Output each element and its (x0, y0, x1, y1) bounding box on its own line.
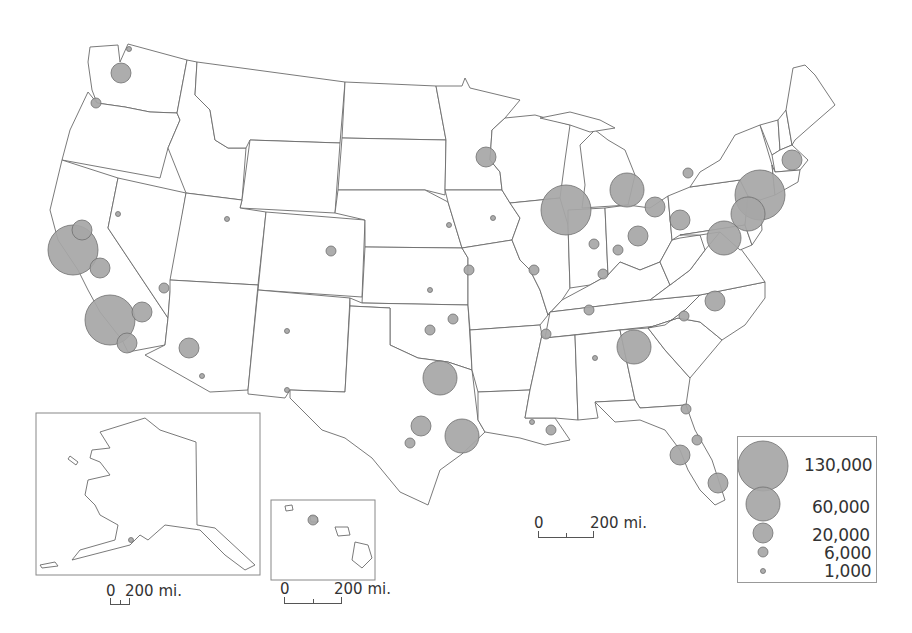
city-bubble (610, 173, 644, 207)
hawaii-inset-frame (271, 500, 375, 580)
city-bubble (90, 258, 110, 278)
city-bubble (445, 419, 479, 453)
city-bubble (405, 438, 415, 448)
legend-label-1000: 1,000 (824, 561, 871, 581)
state-north-dakota (342, 82, 446, 140)
alaska-aleutians (40, 562, 58, 568)
alaska-scale-bar (110, 598, 130, 605)
city-bubble (613, 245, 623, 255)
state-maine (786, 65, 835, 145)
city-bubble (326, 246, 336, 256)
state-washington (88, 44, 187, 113)
city-bubble (225, 217, 230, 222)
city-bubble (159, 283, 169, 293)
city-bubble (72, 220, 92, 240)
city-bubble (679, 311, 689, 321)
hawaii-scale-bar (284, 597, 342, 604)
legend-label-20000: 20,000 (812, 525, 870, 545)
city-bubble (447, 223, 452, 228)
city-bubble (584, 305, 594, 315)
city-bubble (464, 265, 474, 275)
city-bubble (428, 288, 433, 293)
legend-label-60000: 60,000 (812, 497, 870, 517)
city-bubble (529, 265, 539, 275)
city-bubble (589, 239, 599, 249)
city-bubble (423, 361, 457, 395)
state-arkansas (470, 325, 542, 392)
city-bubble (179, 338, 199, 358)
legend: 130,000 60,000 20,000 6,000 1,000 (737, 436, 877, 583)
conus-scale-zero: 0 (534, 514, 544, 532)
state-alaska (72, 418, 255, 570)
city-bubble (132, 302, 152, 322)
hawaii-scale-distance: 200 mi. (334, 580, 391, 598)
city-bubble (731, 197, 765, 231)
city-bubble (705, 291, 725, 311)
state-montana (195, 62, 345, 148)
state-wyoming (240, 140, 340, 213)
alaska-island (68, 456, 78, 465)
city-bubble (285, 388, 290, 393)
city-bubble (782, 150, 802, 170)
city-bubble (670, 210, 690, 230)
legend-label-6000: 6,000 (824, 543, 871, 563)
state-kansas (362, 247, 468, 305)
state-florida (595, 400, 725, 505)
city-bubble (541, 329, 551, 339)
city-bubble (681, 404, 691, 414)
city-bubble (285, 329, 290, 334)
alaska-scale-distance: 200 mi. (125, 582, 182, 600)
hawaii-kauai (285, 505, 293, 511)
city-bubble (670, 445, 690, 465)
city-bubble (448, 314, 458, 324)
city-bubble (476, 147, 496, 167)
conus-scale-distance: 200 mi. (590, 514, 647, 532)
city-bubble (645, 197, 665, 217)
legend-label-130000: 130,000 (804, 455, 872, 475)
city-bubble (91, 98, 101, 108)
conus-scale-bar (538, 531, 594, 538)
city-bubble (708, 473, 728, 493)
state-south-dakota (338, 138, 446, 195)
city-bubble (127, 47, 132, 52)
city-bubble (530, 420, 535, 425)
city-bubble (617, 330, 651, 364)
city-bubble (425, 325, 435, 335)
city-bubble (593, 356, 598, 361)
city-bubble (598, 269, 608, 279)
city-bubble (491, 216, 496, 221)
city-bubble (129, 538, 134, 543)
hawaii-big-island (352, 542, 372, 568)
city-bubble (308, 515, 318, 525)
city-bubble (692, 435, 702, 445)
hawaii-maui (335, 527, 350, 536)
city-bubble (628, 226, 648, 246)
city-bubble (116, 212, 121, 217)
city-bubble (541, 185, 591, 235)
city-bubble (200, 374, 205, 379)
city-bubble (117, 333, 137, 353)
city-bubble (111, 63, 131, 83)
city-bubble (546, 425, 556, 435)
hawaii-scale-zero: 0 (280, 580, 290, 598)
city-bubble (683, 168, 693, 178)
state-colorado (258, 212, 365, 297)
state-new-mexico (248, 290, 350, 398)
city-bubble (411, 416, 431, 436)
